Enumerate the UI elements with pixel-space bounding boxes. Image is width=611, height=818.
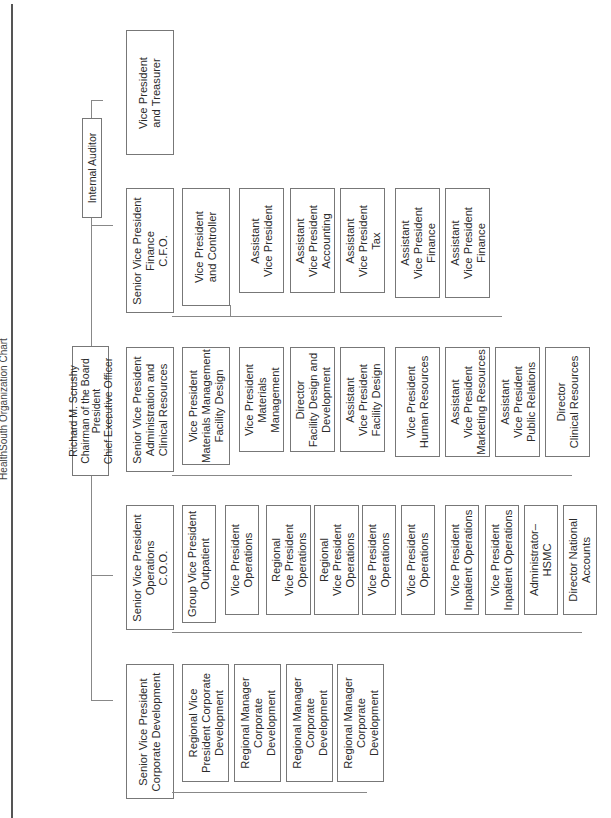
group-vp-outpatient-box: Group Vice President Outpatient — [182, 505, 216, 623]
ceo-box: Richard M. Scrushy Chairman of the Board… — [72, 346, 109, 476]
treasurer-connector — [91, 100, 103, 101]
vp-inpatient-box-1: Vice President Inpatient Operations — [445, 505, 479, 615]
avp-marketing-box: Assistant Vice President Marketing Resou… — [445, 347, 490, 457]
vp-inpatient-box-2: Vice President Inpatient Operations — [485, 505, 519, 615]
avp-facility-box: Assistant Vice President Facility Design — [340, 347, 385, 452]
vp-operations-box-2: Vice President Operations — [362, 505, 396, 615]
director-facility-box: Director Facility Design and Development — [290, 347, 335, 452]
avp-box: Assistant Vice President — [239, 188, 284, 293]
chart-title: HealthSouth Organization Chart — [0, 0, 10, 818]
avp-finance-box-2: Assistant Vice President Finance — [445, 188, 490, 298]
title-rule — [11, 4, 13, 818]
avp-pr-box: Assistant Vice President Public Relation… — [495, 347, 540, 457]
avp-finance-box-1: Assistant Vice President Finance — [395, 188, 440, 298]
regional-manager-corpdev-box-2: Regional Manager Corporate Development — [286, 664, 333, 782]
regional-vp-operations-box-1: Regional Vice President Operations — [266, 505, 311, 615]
svp-admin-box: Senior Vice President Administration and… — [126, 347, 174, 472]
ops-connector — [91, 575, 113, 576]
vp-materials-box: Vice President Materials Management Faci… — [182, 347, 230, 465]
internal-auditor-box: Internal Auditor — [82, 118, 102, 218]
svp-corpdev-box: Senior Vice President Corporate Developm… — [126, 664, 174, 799]
director-clinical-box: Director Clinical Resources — [545, 347, 590, 457]
director-national-accounts-box: Director National Accounts — [563, 505, 597, 615]
svp-operations-box: Senior Vice President Operations C.O.O. — [126, 505, 174, 630]
corpdev-connector — [91, 700, 113, 701]
finance-connector — [91, 225, 113, 226]
vp-controller-box: Vice President and Controller — [182, 188, 230, 306]
regional-vp-corpdev-box: Regional Vice President Corporate Develo… — [182, 664, 229, 782]
avp-accounting-box: Assistant Vice President Accounting — [290, 188, 335, 293]
regional-manager-corpdev-box-3: Regional Manager Corporate Development — [337, 664, 384, 782]
administrator-hsmc-box: Administrator– HSMC — [524, 505, 558, 615]
regional-vp-operations-box-2: Regional Vice President Operations — [314, 505, 359, 615]
vp-treasurer-box: Vice President and Treasurer — [126, 30, 174, 155]
svp-finance-box: Senior Vice President Finance C.F.O. — [126, 188, 174, 313]
ops-bus — [172, 632, 582, 633]
vp-operations-box-1: Vice President Operations — [225, 505, 259, 615]
admin-bus — [172, 475, 572, 476]
corpdev-bus — [172, 792, 367, 793]
regional-manager-corpdev-box-1: Regional Manager Corporate Development — [234, 664, 281, 782]
vp-operations-box-3: Vice President Operations — [401, 505, 435, 615]
avp-tax-box: Assistant Vice President Tax — [340, 188, 385, 293]
vp-hr-box: Vice President Human Resources — [395, 347, 440, 457]
finance-bus — [172, 316, 502, 317]
vp-materials-mgmt-box: Vice President Materials Management — [239, 347, 284, 452]
